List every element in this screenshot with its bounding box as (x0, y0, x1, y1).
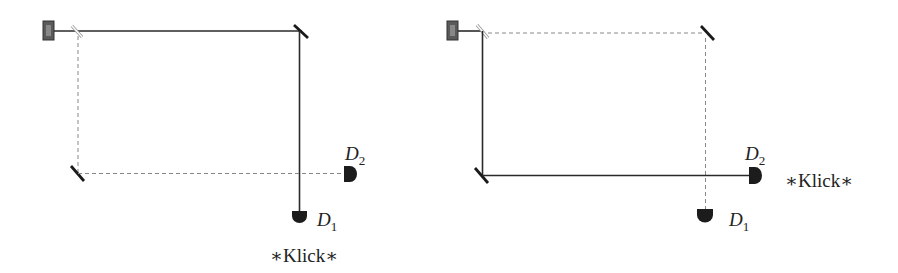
laser-aperture (450, 25, 455, 36)
mirror-bottom-left-icon (71, 166, 84, 181)
detector-d1-icon (697, 209, 713, 223)
detector-d2-label: D2 (344, 143, 365, 168)
left-interferometer (43, 21, 357, 223)
laser-aperture (46, 25, 51, 36)
detector-d2-label: D2 (744, 143, 765, 168)
detector-d1-icon (292, 211, 307, 223)
detector-d1-label: D1 (316, 209, 337, 234)
detector-d1-label: D1 (728, 209, 749, 234)
detector-d2-icon (344, 166, 357, 182)
interferometer-diagrams: D2 D1 ∗Klick∗ D2 D1 ∗Klick∗ (0, 0, 898, 273)
click-text: ∗Klick∗ (785, 170, 853, 191)
mirror-top-right-icon (701, 26, 714, 40)
detector-d2-icon (749, 167, 762, 184)
click-text: ∗Klick∗ (270, 245, 338, 266)
right-interferometer (447, 21, 762, 223)
